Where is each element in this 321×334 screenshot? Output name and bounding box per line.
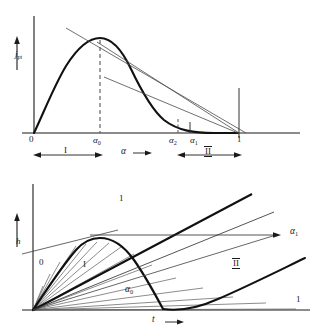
top-tick-one: 1 (237, 135, 241, 144)
top-tick-alpha0: α0 (93, 136, 101, 146)
bottom-region-label-II: II (232, 258, 240, 269)
top-origin-label: 0 (29, 135, 34, 144)
top-region-label-II: II (204, 146, 212, 157)
top-tick-alpha2: α2 (169, 136, 177, 146)
bottom-y-arrowhead-icon (14, 213, 20, 221)
bottom-y-axis-label: h (16, 237, 21, 246)
bottom-region-label-I: I (83, 260, 86, 269)
top-region-label-I: I (64, 146, 67, 155)
top-flux-curve (34, 38, 238, 133)
top-chord-through-alpha0 (66, 28, 246, 133)
bottom-x-label-arrowhead-icon (177, 319, 184, 324)
bottom-panel-plot (0, 170, 321, 334)
bottom-alpha0-label: α0 (125, 285, 133, 295)
bottom-region-label-one-right: 1 (296, 295, 301, 304)
top-y-arrowhead-icon (14, 36, 20, 44)
top-span-II-right-arrow-icon (234, 152, 242, 158)
top-tick-alpha1: α1 (190, 136, 198, 146)
bottom-alpha1-label: α1 (290, 227, 298, 237)
top-x-axis-label: α (121, 147, 126, 157)
bottom-x-axis-label: t (152, 315, 155, 325)
top-span-II-left-arrow-icon (177, 152, 185, 158)
top-y-axis-label: jpt (15, 50, 22, 60)
bottom-region-label-one-top: 1 (119, 194, 124, 203)
bottom-alpha1-arrowhead-icon (273, 232, 281, 238)
bottom-shallow-crossing-line (22, 230, 118, 254)
top-x-label-arrowhead-icon (145, 150, 152, 155)
bottom-envelope-descending-branch (100, 238, 163, 309)
top-span-I-left-arrow-icon (33, 152, 41, 158)
bottom-upper-bounding-ray (33, 194, 252, 310)
top-chord-through-alpha1 (97, 42, 239, 133)
figure-root: jpt 0 α0 α2 α1 1 I II α (0, 0, 321, 334)
bottom-region-label-0: 0 (39, 258, 44, 267)
characteristic-ray-fan (33, 242, 296, 310)
top-span-I-right-arrow-icon (95, 152, 103, 158)
top-panel-plot (0, 0, 321, 170)
